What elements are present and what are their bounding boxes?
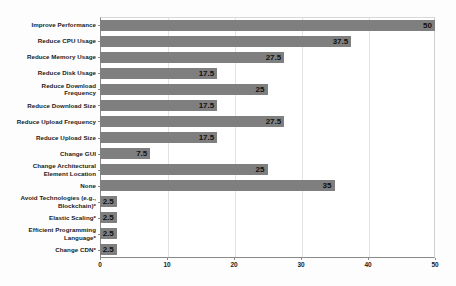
- y-axis-tickmark: [98, 25, 100, 26]
- category-label-line: Avoid Technologies (e.g.,: [20, 194, 96, 201]
- bar-value-label: 25: [256, 85, 268, 94]
- category-label: Reduce DownloadFrequency: [0, 82, 96, 97]
- bar-row: Reduce Upload Frequency27.5: [0, 113, 456, 129]
- bar-value-label: 17.5: [199, 69, 218, 78]
- y-axis-tickmark: [98, 250, 100, 251]
- bar-container: 2.5: [100, 210, 117, 226]
- category-label: Reduce Download Size: [0, 102, 96, 110]
- bar-container: 35: [100, 178, 335, 194]
- bar-row: Reduce Download Size17.5: [0, 97, 456, 113]
- bar[interactable]: 25: [100, 84, 268, 95]
- bar-container: 2.5: [100, 242, 117, 258]
- bar-value-label: 27.5: [266, 117, 285, 126]
- bar-row: Change GUI7.5: [0, 146, 456, 162]
- x-axis-tickmark: [234, 258, 235, 260]
- bar[interactable]: 27.5: [100, 116, 284, 127]
- bar[interactable]: 17.5: [100, 132, 217, 143]
- bar[interactable]: 17.5: [100, 100, 217, 111]
- category-label: Efficient ProgrammingLanguage*: [0, 226, 96, 241]
- category-label: Reduce Upload Size: [0, 134, 96, 142]
- bar-value-label: 7.5: [136, 149, 150, 158]
- bar-row: Reduce Upload Size17.5: [0, 129, 456, 145]
- x-axis-tickmark: [167, 258, 168, 260]
- category-label: Change ArchitecturalElement Location: [0, 162, 96, 177]
- bar-container: 27.5: [100, 113, 284, 129]
- bar-container: 17.5: [100, 97, 217, 113]
- bar-row: Avoid Technologies (e.g.,Blockchain)*2.5: [0, 194, 456, 210]
- bar-value-label: 17.5: [199, 133, 218, 142]
- x-axis-tickmark: [368, 258, 369, 260]
- y-axis-tickmark: [98, 202, 100, 203]
- bar-container: 2.5: [100, 194, 117, 210]
- bar-chart: Improve Performance50Reduce CPU Usage37.…: [0, 0, 456, 286]
- y-axis-tickmark: [98, 170, 100, 171]
- bar[interactable]: 7.5: [100, 148, 150, 159]
- bar-container: 50: [100, 17, 435, 33]
- category-label: Reduce Upload Frequency: [0, 118, 96, 126]
- bar-value-label: 25: [256, 165, 268, 174]
- bar[interactable]: 17.5: [100, 68, 217, 79]
- y-axis-tickmark: [98, 41, 100, 42]
- bar[interactable]: 27.5: [100, 52, 284, 63]
- category-label-line: Reduce Download Size: [27, 102, 96, 109]
- bar-value-label: 2.5: [103, 245, 117, 254]
- bar-value-label: 2.5: [103, 197, 117, 206]
- x-tick-label: 0: [98, 261, 102, 268]
- x-axis-tickmark: [301, 258, 302, 260]
- bar-rows: Improve Performance50Reduce CPU Usage37.…: [0, 17, 456, 258]
- category-label-line: Change GUI: [60, 150, 96, 157]
- category-label-line: Element Location: [44, 170, 96, 177]
- bar-value-label: 37.5: [333, 37, 352, 46]
- bar[interactable]: 35: [100, 180, 335, 191]
- bar[interactable]: 2.5: [100, 212, 117, 223]
- bar[interactable]: 37.5: [100, 36, 351, 47]
- category-label-line: Change Architectural: [33, 162, 96, 169]
- bar-value-label: 2.5: [103, 213, 117, 222]
- x-tick-label: 50: [431, 261, 438, 268]
- category-label-line: Elastic Scaling*: [49, 214, 96, 221]
- category-label-line: Reduce Upload Size: [36, 134, 96, 141]
- category-label: Change GUI: [0, 150, 96, 158]
- category-label-line: Blockchain)*: [58, 202, 96, 209]
- bar-container: 7.5: [100, 146, 150, 162]
- x-axis-tickmark: [435, 258, 436, 260]
- bar-row: Efficient ProgrammingLanguage*2.5: [0, 226, 456, 242]
- bar-row: Change ArchitecturalElement Location25: [0, 162, 456, 178]
- x-axis-ticks: 01020304050: [0, 261, 456, 275]
- bar[interactable]: 2.5: [100, 196, 117, 207]
- category-label-line: Change CDN*: [55, 246, 96, 253]
- category-label-line: Reduce Disk Usage: [38, 69, 96, 76]
- y-axis-tickmark: [98, 186, 100, 187]
- category-label: Reduce CPU Usage: [0, 37, 96, 45]
- y-axis-tickmark: [98, 89, 100, 90]
- y-axis-tickmark: [98, 234, 100, 235]
- y-axis-tickmark: [98, 218, 100, 219]
- bar-container: 37.5: [100, 33, 351, 49]
- bar-row: Reduce Memory Usage27.5: [0, 49, 456, 65]
- bar-value-label: 50: [423, 21, 435, 30]
- bar[interactable]: 2.5: [100, 244, 117, 255]
- x-axis-tickmark: [100, 258, 101, 260]
- bar-row: Elastic Scaling*2.5: [0, 210, 456, 226]
- category-label-line: Reduce Upload Frequency: [17, 118, 96, 125]
- bar[interactable]: 25: [100, 164, 268, 175]
- x-tick-label: 40: [364, 261, 371, 268]
- bar-row: None35: [0, 178, 456, 194]
- bar-container: 17.5: [100, 65, 217, 81]
- category-label: Reduce Memory Usage: [0, 53, 96, 61]
- y-axis-tickmark: [98, 57, 100, 58]
- category-label-line: Reduce Memory Usage: [27, 53, 96, 60]
- category-label-line: Reduce Download: [42, 82, 96, 89]
- category-label-line: Efficient Programming: [29, 226, 96, 233]
- y-axis-tickmark: [98, 138, 100, 139]
- category-label: Avoid Technologies (e.g.,Blockchain)*: [0, 194, 96, 209]
- y-axis-tickmark: [98, 105, 100, 106]
- bar[interactable]: 50: [100, 20, 435, 31]
- category-label: Improve Performance: [0, 21, 96, 29]
- bar-row: Reduce Disk Usage17.5: [0, 65, 456, 81]
- bar[interactable]: 2.5: [100, 228, 117, 239]
- bar-value-label: 17.5: [199, 101, 218, 110]
- category-label: None: [0, 182, 96, 190]
- bar-value-label: 2.5: [103, 229, 117, 238]
- bar-value-label: 35: [323, 181, 335, 190]
